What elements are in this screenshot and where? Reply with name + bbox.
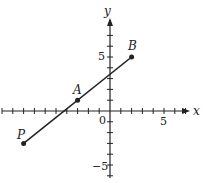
y-axis-arrow-icon	[107, 18, 113, 26]
coordinate-plot: P A B x y 0 5 5 −5	[0, 0, 204, 183]
x-tick-label-5: 5	[160, 115, 167, 128]
label-p: P	[16, 128, 26, 142]
point-b	[129, 55, 134, 60]
y-tick-label-5: 5	[98, 50, 105, 63]
label-a: A	[72, 83, 82, 97]
y-axis-label: y	[103, 4, 111, 18]
label-b: B	[127, 39, 137, 53]
point-a	[75, 98, 80, 103]
plot-svg: P A B x y 0 5 5 −5	[0, 0, 204, 183]
x-axis-label: x	[193, 104, 200, 118]
y-tick-label-neg5: −5	[92, 160, 108, 173]
origin-label: 0	[99, 114, 106, 127]
